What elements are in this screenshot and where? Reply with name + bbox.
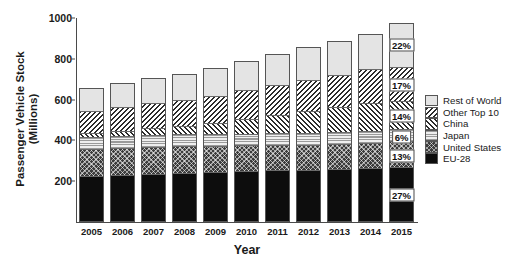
bar-segment-2007-eu-28[interactable] — [142, 175, 165, 221]
legend-item-eu-28[interactable]: EU-28 — [425, 153, 517, 165]
bar-segment-2010-china[interactable] — [235, 120, 258, 135]
y-tick-mark-400 — [71, 140, 75, 141]
x-tick-label-2008: 2008 — [174, 226, 195, 237]
bar-segment-2005-eu-28[interactable] — [80, 177, 103, 221]
bar-segment-2009-japan[interactable] — [204, 135, 227, 147]
bar-segment-2006-other-top-10[interactable] — [111, 108, 134, 132]
bar-2009[interactable] — [203, 68, 228, 222]
bar-segment-2007-united-states[interactable] — [142, 148, 165, 175]
bar-2006[interactable] — [110, 83, 135, 222]
bar-segment-2010-other-top-10[interactable] — [235, 91, 258, 120]
y-tick-label-800: 800 — [34, 53, 72, 65]
bar-segment-2010-united-states[interactable] — [235, 146, 258, 172]
bar-segment-2010-eu-28[interactable] — [235, 172, 258, 221]
bar-segment-2006-united-states[interactable] — [111, 149, 134, 176]
bar-segment-2010-japan[interactable] — [235, 135, 258, 147]
bar-2013[interactable] — [327, 41, 352, 222]
y-tick-mark-200 — [71, 181, 75, 182]
y-tick-mark-1000 — [71, 18, 75, 19]
bar-segment-2014-other-top-10[interactable] — [359, 70, 382, 104]
bar-segment-2011-eu-28[interactable] — [266, 171, 289, 221]
bar-segment-2008-united-states[interactable] — [173, 147, 196, 174]
legend-swatch-united-states — [425, 141, 438, 152]
bar-segment-2006-japan[interactable] — [111, 137, 134, 148]
x-axis-line — [76, 222, 418, 223]
bar-segment-2005-other-top-10[interactable] — [80, 112, 103, 134]
bar-segment-2009-united-states[interactable] — [204, 147, 227, 173]
bar-segment-2012-other-top-10[interactable] — [297, 81, 320, 113]
bar-segment-2007-japan[interactable] — [142, 136, 165, 148]
y-tick-label-200: 200 — [34, 175, 72, 187]
legend-item-rest-of-world[interactable]: Rest of World — [425, 95, 517, 107]
bar-segment-2013-eu-28[interactable] — [328, 170, 351, 221]
bar-2014[interactable] — [358, 34, 383, 222]
bar-segment-2008-japan[interactable] — [173, 135, 196, 147]
bar-segment-2008-eu-28[interactable] — [173, 174, 196, 221]
legend-label: Japan — [443, 130, 469, 141]
bar-2007[interactable] — [141, 78, 166, 222]
bar-segment-2013-other-top-10[interactable] — [328, 76, 351, 109]
bar-segment-2011-china[interactable] — [266, 116, 289, 134]
legend-swatch-japan — [425, 130, 438, 141]
bar-segment-2008-other-top-10[interactable] — [173, 101, 196, 127]
bar-segment-2005-rest-of-world[interactable] — [80, 89, 103, 112]
x-axis-title: Year — [76, 243, 418, 257]
x-tick-label-2013: 2013 — [329, 226, 350, 237]
bar-segment-2008-china[interactable] — [173, 127, 196, 135]
bar-2008[interactable] — [172, 74, 197, 223]
percent-label-other-top-10: 17% — [389, 78, 414, 91]
bar-segment-2012-china[interactable] — [297, 112, 320, 133]
bar-segment-2007-rest-of-world[interactable] — [142, 79, 165, 104]
legend-item-china[interactable]: China — [425, 118, 517, 130]
bar-segment-2011-other-top-10[interactable] — [266, 86, 289, 116]
bar-segment-2007-other-top-10[interactable] — [142, 104, 165, 129]
legend-item-japan[interactable]: Japan — [425, 130, 517, 142]
legend-swatch-other-top-10 — [425, 107, 438, 118]
bar-segment-2009-other-top-10[interactable] — [204, 97, 227, 124]
bar-segment-2006-rest-of-world[interactable] — [111, 84, 134, 108]
bar-segment-2013-japan[interactable] — [328, 133, 351, 145]
legend-label: Other Top 10 — [443, 107, 499, 118]
bar-segment-2009-rest-of-world[interactable] — [204, 69, 227, 97]
chart-legend: Rest of WorldOther Top 10ChinaJapanUnite… — [425, 95, 517, 165]
bar-segment-2012-japan[interactable] — [297, 134, 320, 146]
bar-2011[interactable] — [265, 54, 290, 222]
bar-segment-2010-rest-of-world[interactable] — [235, 62, 258, 91]
percent-label-rest-of-world: 22% — [389, 39, 414, 52]
bar-segment-2007-china[interactable] — [142, 129, 165, 136]
bar-segment-2011-united-states[interactable] — [266, 146, 289, 172]
legend-item-united-states[interactable]: United States — [425, 141, 517, 153]
bar-segment-2011-japan[interactable] — [266, 134, 289, 146]
bar-2012[interactable] — [296, 47, 321, 222]
bar-segment-2005-united-states[interactable] — [80, 150, 103, 177]
bar-segment-2011-rest-of-world[interactable] — [266, 55, 289, 86]
bar-segment-2006-eu-28[interactable] — [111, 176, 134, 221]
bar-segment-2014-united-states[interactable] — [359, 144, 382, 170]
bar-segment-2012-united-states[interactable] — [297, 146, 320, 171]
bar-2005[interactable] — [79, 88, 104, 222]
stacked-bar-chart: Passenger Vehicle Stock (Millions) 20040… — [0, 0, 517, 273]
legend-label: United States — [443, 142, 501, 153]
bar-segment-2014-china[interactable] — [359, 104, 382, 132]
bar-segment-2005-japan[interactable] — [80, 138, 103, 149]
y-tick-label-600: 600 — [34, 94, 72, 106]
legend-label: EU-28 — [443, 153, 470, 164]
legend-label: Rest of World — [443, 95, 502, 106]
percent-label-china: 14% — [389, 110, 414, 123]
bar-segment-2013-rest-of-world[interactable] — [328, 42, 351, 76]
bar-2010[interactable] — [234, 61, 259, 222]
bar-segment-2009-eu-28[interactable] — [204, 173, 227, 221]
x-tick-label-2014: 2014 — [360, 226, 381, 237]
bar-segment-2013-united-states[interactable] — [328, 145, 351, 170]
bar-segment-2012-rest-of-world[interactable] — [297, 48, 320, 80]
y-tick-label-400: 400 — [34, 134, 72, 146]
bar-segment-2009-china[interactable] — [204, 124, 227, 135]
percent-label-united-states: 13% — [389, 149, 414, 162]
bar-segment-2008-rest-of-world[interactable] — [173, 75, 196, 101]
bar-segment-2014-eu-28[interactable] — [359, 169, 382, 221]
legend-item-other-top-10[interactable]: Other Top 10 — [425, 107, 517, 119]
bar-segment-2012-eu-28[interactable] — [297, 171, 320, 221]
bar-segment-2014-japan[interactable] — [359, 132, 382, 144]
bar-segment-2014-rest-of-world[interactable] — [359, 35, 382, 70]
bar-segment-2013-china[interactable] — [328, 108, 351, 133]
